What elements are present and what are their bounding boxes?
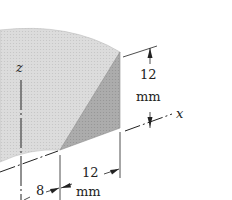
thickness-value: 8	[36, 183, 44, 198]
height-unit: mm	[136, 89, 161, 104]
arrowhead-up	[148, 48, 153, 58]
x-axis-label: x	[176, 106, 184, 121]
x-axis-line-right	[125, 114, 172, 131]
extension-line-top	[123, 46, 157, 57]
z-axis-label: z	[15, 60, 23, 75]
width-value: 12	[82, 165, 99, 180]
arrowhead-thickness-in	[61, 183, 71, 188]
arrowhead-thickness	[50, 188, 59, 194]
solid-diagram: z x 12 mm 12 mm 8	[0, 0, 232, 200]
dim-line-lower-left	[24, 197, 30, 200]
arrowhead-down	[148, 117, 153, 127]
height-value: 12	[140, 67, 157, 82]
width-unit: mm	[76, 184, 101, 199]
arrowhead-right	[110, 169, 119, 175]
